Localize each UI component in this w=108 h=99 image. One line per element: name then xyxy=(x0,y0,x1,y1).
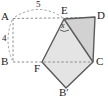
vertex-label-D: D xyxy=(97,10,105,21)
dimension-label-left: 4 xyxy=(2,34,7,43)
vertex-label-C: C xyxy=(96,56,103,67)
vertex-label-A: A xyxy=(1,11,9,22)
angle-label-x: x xyxy=(61,22,65,30)
dimension-label-top: 5 xyxy=(36,0,41,9)
vertex-label-E: E xyxy=(61,5,68,16)
figure-canvas xyxy=(0,0,108,99)
dimension-arc-left-AB xyxy=(8,20,12,60)
geometry-figure: A B C D E F B′ 5 4 x xyxy=(0,0,108,99)
dimension-arc-top-AE xyxy=(15,10,62,18)
vertex-label-B: B xyxy=(1,56,8,67)
vertex-label-b-prime: B′ xyxy=(59,87,69,98)
vertex-label-F: F xyxy=(34,63,40,74)
